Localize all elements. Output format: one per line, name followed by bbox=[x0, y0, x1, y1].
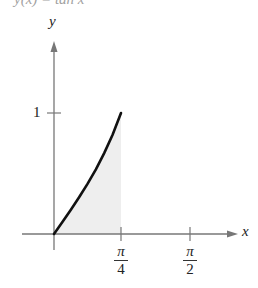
y-axis-label: y bbox=[49, 13, 56, 30]
x-tick-label-pi-over-2: π 2 bbox=[180, 244, 200, 277]
tick-denominator: 4 bbox=[111, 262, 131, 277]
x-axis-arrowhead-icon bbox=[227, 231, 238, 238]
x-axis-label: x bbox=[242, 223, 249, 240]
y-tick-label-1: 1 bbox=[33, 104, 41, 121]
tick-numerator: π bbox=[180, 244, 200, 259]
tick-numerator: π bbox=[111, 244, 131, 259]
tick-denominator: 2 bbox=[180, 262, 200, 277]
y-axis-arrowhead-icon bbox=[51, 41, 58, 52]
x-tick-label-pi-over-4: π 4 bbox=[111, 244, 131, 277]
shaded-area-under-curve bbox=[54, 113, 121, 234]
